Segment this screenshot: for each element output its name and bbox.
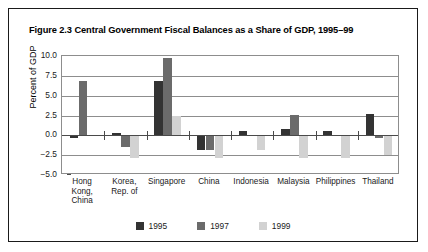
- legend-item[interactable]: 1997: [197, 221, 229, 231]
- bar-group: [358, 56, 399, 173]
- legend-swatch: [197, 222, 205, 230]
- y-tick-mark: [67, 174, 71, 175]
- x-axis-tick: [104, 131, 105, 140]
- x-axis-tick: [189, 131, 190, 140]
- plot-area: [61, 55, 399, 174]
- figure-title: Figure 2.3 Central Government Fiscal Bal…: [29, 25, 353, 35]
- x-category-label: Indonesia: [230, 177, 272, 187]
- legend-label: 1997: [210, 221, 229, 231]
- plot-wrapper: [61, 55, 399, 174]
- bar-group: [147, 56, 189, 173]
- x-category-label: Hong Kong, China: [61, 177, 103, 206]
- bar: [384, 135, 393, 155]
- x-axis-tick: [273, 131, 274, 140]
- bar: [130, 135, 139, 158]
- legend-label: 1999: [272, 221, 291, 231]
- bar: [299, 135, 308, 158]
- bar: [366, 114, 375, 135]
- x-axis-labels: Hong Kong, ChinaKorea, Rep. ofSingaporeC…: [61, 177, 399, 217]
- bar: [79, 81, 88, 135]
- bar: [206, 135, 215, 149]
- bar: [257, 135, 266, 150]
- bar-group: [273, 56, 315, 173]
- zero-axis-line: [62, 135, 398, 136]
- bar-group: [189, 56, 231, 173]
- x-category-label: Malaysia: [272, 177, 314, 187]
- chart-legend: 199519971999: [9, 221, 417, 231]
- x-category-label: Singapore: [146, 177, 188, 187]
- y-tick-label: 5.0: [45, 90, 57, 100]
- bar: [197, 135, 206, 150]
- legend-swatch: [259, 222, 267, 230]
- y-axis-ticks: 10.07.55.02.50.0−2.5−5.0: [19, 55, 57, 174]
- legend-item[interactable]: 1999: [259, 221, 291, 231]
- y-tick-label: 2.5: [45, 110, 57, 120]
- x-category-label: Philippines: [315, 177, 357, 187]
- y-tick-label: 7.5: [45, 70, 57, 80]
- legend-label: 1995: [149, 221, 168, 231]
- bar: [172, 116, 181, 135]
- x-axis-tick: [147, 131, 148, 140]
- bar-group: [231, 56, 273, 173]
- x-axis-tick: [231, 131, 232, 140]
- bar: [154, 81, 163, 136]
- legend-swatch: [136, 222, 144, 230]
- x-axis-tick: [316, 131, 317, 140]
- bar: [341, 135, 350, 158]
- y-tick-label: 0.0: [45, 129, 57, 139]
- x-category-label: China: [188, 177, 230, 187]
- y-tick-label: 10.0: [41, 50, 57, 60]
- bar-group: [104, 56, 146, 173]
- x-axis-tick: [358, 131, 359, 140]
- x-category-label: Korea, Rep. of: [103, 177, 145, 196]
- y-tick-label: −2.5: [40, 149, 57, 159]
- x-category-label: Thailand: [357, 177, 399, 187]
- bar: [121, 135, 130, 147]
- bar: [290, 115, 299, 136]
- y-tick-label: −5.0: [40, 169, 57, 179]
- legend-item[interactable]: 1995: [136, 221, 168, 231]
- bar-group: [316, 56, 358, 173]
- bar: [163, 58, 172, 135]
- figure-frame: Figure 2.3 Central Government Fiscal Bal…: [8, 8, 418, 242]
- bar: [215, 135, 224, 158]
- bar-group: [62, 56, 104, 173]
